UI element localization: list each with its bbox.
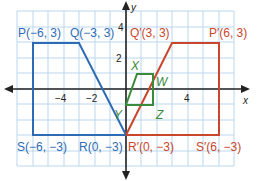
- x-axis-label: x: [242, 95, 249, 106]
- label-s-prime: S′(6, −3): [196, 140, 241, 154]
- y-tick-2: 2: [116, 53, 122, 64]
- label-r: R(0, −3): [79, 140, 123, 154]
- label-p: P(−6, 3): [18, 26, 61, 40]
- label-p-prime: P′(6, 3): [209, 26, 247, 40]
- y-axis-label: y: [130, 2, 137, 13]
- label-s: S(−6, −3): [17, 140, 67, 154]
- x-tick-minus4: −4: [55, 93, 67, 104]
- label-w: W: [156, 75, 169, 89]
- label-z: Z: [155, 108, 164, 122]
- x-tick-minus2: −2: [86, 93, 98, 104]
- label-q: Q(−3, 3): [70, 26, 114, 40]
- y-axis-arrow-down-icon: [122, 171, 130, 180]
- label-x: X: [130, 59, 140, 73]
- label-r-prime: R′(0, −3): [128, 140, 174, 154]
- y-axis-arrow-up-icon: [122, 1, 130, 10]
- y-tick-4: 4: [118, 22, 124, 33]
- label-y: Y: [114, 108, 123, 122]
- x-axis-arrow-left-icon: [4, 85, 13, 93]
- x-axis-arrow-right-icon: [241, 85, 250, 93]
- coordinate-plane: x y −4 −2 4 4 2 P(−6, 3) Q(−3, 3) S(−6, …: [0, 0, 260, 181]
- label-q-prime: Q′(3, 3): [130, 26, 170, 40]
- x-tick-4: 4: [184, 93, 190, 104]
